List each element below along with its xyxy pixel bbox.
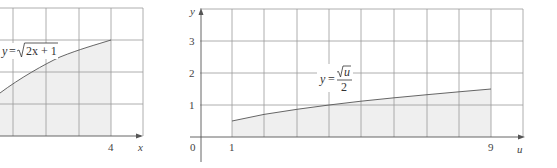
right-ytick-3: 3: [189, 35, 195, 47]
right-eq-y: y: [319, 72, 326, 86]
right-tick-1: 1: [229, 141, 235, 153]
right-eq-equals: =: [328, 72, 335, 86]
right-chart: 0 1 9 u 1 2 3 y y = u 2: [189, 5, 525, 162]
right-axis-label-y: y: [189, 5, 195, 17]
right-eq-denominator: 2: [341, 80, 347, 94]
left-axis-label-x: x: [137, 141, 143, 153]
right-ytick-1: 1: [189, 99, 195, 111]
right-eq-numerator: u: [344, 65, 350, 79]
left-x-axis-arrow-icon: [136, 134, 143, 139]
left-tick-4: 4: [108, 141, 114, 153]
right-axis-label-u: u: [517, 143, 523, 155]
right-u-axis-arrow-icon: [518, 135, 525, 140]
left-eq-equals: =: [9, 44, 16, 58]
left-chart: 4 x y = 2x + 1: [0, 8, 143, 153]
right-tick-9: 9: [488, 141, 494, 153]
right-tick-0: 0: [190, 141, 196, 153]
left-eq-y: y: [1, 44, 8, 58]
right-ytick-2: 2: [189, 67, 195, 79]
left-eq-radicand: 2x + 1: [26, 44, 57, 58]
figure: 4 x y = 2x + 1: [0, 0, 557, 168]
